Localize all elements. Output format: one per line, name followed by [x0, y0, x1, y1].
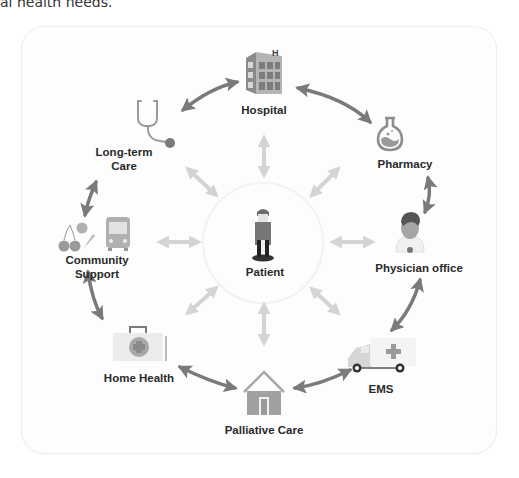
- arrow-longterm-community: [85, 182, 96, 215]
- node-label-physician-office: Physician office: [375, 261, 463, 275]
- node-label-ems: EMS: [369, 382, 394, 396]
- node-label-home-health: Home Health: [104, 371, 174, 385]
- spoke-longterm: [188, 169, 216, 195]
- doctor-icon: [396, 212, 424, 253]
- ambulance-icon: [348, 338, 416, 373]
- arrow-pharmacy-physician: [425, 178, 429, 212]
- house-icon: [244, 372, 284, 415]
- center-label-patient: Patient: [246, 265, 284, 279]
- arrow-homehealth-palliative: [180, 367, 235, 388]
- medical-kit-icon: [113, 327, 166, 361]
- arrow-hospital-pharmacy: [298, 88, 370, 122]
- spoke-ems: [312, 289, 338, 313]
- node-label-hospital: Hospital: [241, 103, 286, 117]
- care-network-diagram: H: [0, 0, 519, 478]
- label-line-1: Long-term: [96, 145, 153, 159]
- node-label-long-term-care: Long-term Care: [96, 145, 153, 173]
- hospital-building-icon: H: [246, 48, 282, 94]
- label-line-1: Community: [65, 253, 128, 267]
- arrow-physician-ems: [392, 280, 420, 330]
- arrow-ems-palliative: [295, 370, 350, 388]
- flask-icon: [378, 118, 402, 150]
- patient-icon: [252, 209, 274, 262]
- spoke-homehealth: [188, 288, 216, 313]
- node-label-community-support: Community Support: [65, 253, 128, 281]
- svg-text:H: H: [272, 48, 279, 58]
- spoke-pharmacy: [312, 169, 338, 195]
- label-line-2: Care: [96, 159, 153, 173]
- bus-and-food-icon: [59, 217, 131, 252]
- node-label-palliative-care: Palliative Care: [225, 423, 304, 437]
- label-line-2: Support: [65, 267, 128, 281]
- stethoscope-icon: [138, 101, 175, 148]
- node-label-pharmacy: Pharmacy: [378, 157, 433, 171]
- arrow-longterm-hospital: [183, 82, 237, 110]
